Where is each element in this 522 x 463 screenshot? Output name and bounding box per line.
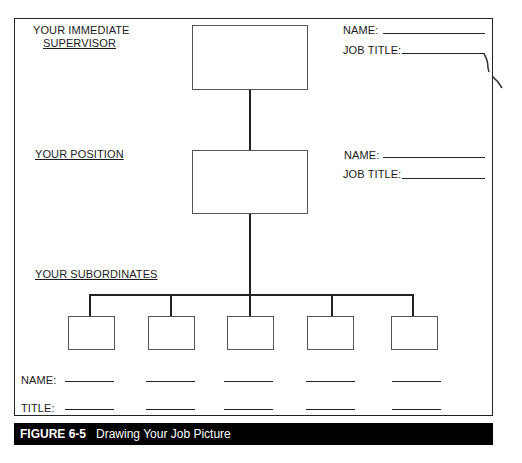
branch-drop-4 xyxy=(331,294,333,316)
subordinate-name-blank-4[interactable] xyxy=(306,381,355,382)
subordinate-title-blank-3[interactable] xyxy=(224,409,273,410)
position-job-title-label: JOB TITLE: xyxy=(343,168,401,180)
subordinates-section-label: YOUR SUBORDINATES xyxy=(35,268,158,280)
subordinate-box-1[interactable] xyxy=(68,316,115,350)
subordinate-title-blank-2[interactable] xyxy=(146,409,195,410)
pen-mark-scribble xyxy=(480,50,510,95)
figure-caption: FIGURE 6-5Drawing Your Job Picture xyxy=(14,423,493,445)
branch-drop-3 xyxy=(249,294,251,316)
position-name-blank[interactable] xyxy=(383,157,485,158)
supervisor-section-label-line2: SUPERVISOR xyxy=(33,37,126,49)
connector-supervisor-position xyxy=(249,90,251,150)
supervisor-job-title-label: JOB TITLE: xyxy=(343,44,401,56)
subordinate-title-blank-4[interactable] xyxy=(306,409,355,410)
branch-drop-1 xyxy=(89,294,91,316)
position-box[interactable] xyxy=(192,150,308,214)
subordinates-title-label: TITLE: xyxy=(21,402,55,414)
branch-drop-2 xyxy=(170,294,172,316)
subordinate-box-5[interactable] xyxy=(391,316,438,350)
subordinate-name-blank-2[interactable] xyxy=(146,381,195,382)
position-section-label: YOUR POSITION xyxy=(35,148,124,160)
subordinates-branch-line xyxy=(89,294,414,296)
position-job-title-blank[interactable] xyxy=(402,178,485,179)
position-name-label: NAME: xyxy=(344,149,379,161)
subordinate-box-4[interactable] xyxy=(307,316,354,350)
supervisor-box[interactable] xyxy=(192,25,308,90)
supervisor-name-blank[interactable] xyxy=(383,33,485,34)
figure-title: Drawing Your Job Picture xyxy=(96,427,231,441)
figure-number: FIGURE 6-5 xyxy=(20,427,86,441)
supervisor-section-label-line1: YOUR IMMEDIATE xyxy=(33,24,130,36)
connector-position-subordinates xyxy=(249,214,251,296)
subordinates-name-label: NAME: xyxy=(21,374,56,386)
supervisor-job-title-blank[interactable] xyxy=(402,53,485,54)
branch-drop-5 xyxy=(412,294,414,316)
subordinate-name-blank-1[interactable] xyxy=(65,381,114,382)
subordinate-box-3[interactable] xyxy=(227,316,274,350)
subordinate-title-blank-1[interactable] xyxy=(65,409,114,410)
supervisor-name-label: NAME: xyxy=(343,24,378,36)
subordinate-title-blank-5[interactable] xyxy=(392,409,441,410)
subordinate-box-2[interactable] xyxy=(148,316,195,350)
subordinate-name-blank-5[interactable] xyxy=(392,381,441,382)
subordinate-name-blank-3[interactable] xyxy=(224,381,273,382)
